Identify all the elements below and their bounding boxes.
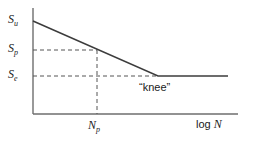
y-label-ultimate-strength: Su [8, 13, 18, 28]
y-label-peak-stress: Sp [8, 42, 18, 57]
x-label-cycles-to-failure: Np [88, 119, 100, 134]
y-label-endurance-limit: Se [8, 68, 18, 83]
sn-curve-figure: Su Sp Se Np log N “knee” [0, 0, 253, 146]
x-axis-title: log N [196, 118, 222, 130]
knee-annotation: “knee” [139, 82, 170, 93]
sn-curve-line [33, 21, 228, 76]
